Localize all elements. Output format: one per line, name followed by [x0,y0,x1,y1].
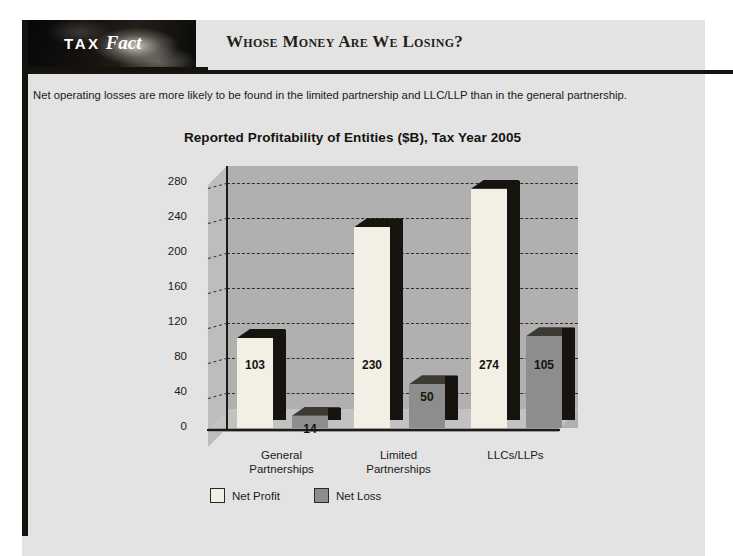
legend-swatch-net-loss [314,488,329,503]
y-axis-tick-label: 120 [147,315,187,327]
y-axis-tick-label: 240 [147,210,187,222]
gridline [227,183,578,184]
tax-fact-logo-text: TAXFact [64,33,142,54]
x-axis-tick-label: LimitedPartnerships [339,448,459,476]
plot-side-wall [208,166,227,447]
bar-value-label: 230 [354,358,390,372]
y-axis-tick-label: 280 [147,175,187,187]
bar-side-face [273,330,286,420]
x-axis-line [207,429,560,431]
x-axis-tick-label-line: Partnerships [339,462,459,476]
x-axis-tick-label-line: Limited [339,448,459,462]
plot-area: 1031423050274105 [185,166,585,451]
logo-underbar [28,67,208,74]
bar-front-face [237,338,273,428]
left-border-rule [22,20,28,536]
chart-legend: Net Profit Net Loss [210,488,381,503]
y-axis-tick-label: 40 [147,385,187,397]
x-axis-tick-label: GeneralPartnerships [222,448,342,476]
y-axis-line [226,166,228,430]
chart-title: Reported Profitability of Entities ($B),… [0,130,705,145]
x-axis-tick-label-line: Partnerships [222,462,342,476]
bar-value-label: 50 [409,390,445,404]
legend-label-net-profit: Net Profit [232,490,280,502]
bar-side-face [507,181,520,420]
intro-paragraph: Net operating losses are more likely to … [33,88,673,103]
bar-chart: 1031423050274105 04080120160200240280 Ge… [150,158,590,518]
bar-value-label: 274 [471,358,507,372]
bar-side-face [390,219,403,420]
bar-front-face [471,189,507,428]
bar-net-profit [471,189,507,428]
bar-side-face [445,376,458,420]
page-header: TAXFact Whose Money Are We Losing? [28,20,705,72]
legend-swatch-net-profit [210,488,225,503]
header-divider [208,70,733,74]
bar-net-loss [526,336,562,428]
logo-word-fact: Fact [106,32,142,53]
page-title: Whose Money Are We Losing? [226,32,463,52]
bar-value-label: 105 [526,358,562,372]
x-axis-tick-label: LLCs/LLPs [456,448,576,462]
bar-front-face [526,336,562,428]
y-axis-tick-label: 160 [147,280,187,292]
x-axis-tick-label-line: LLCs/LLPs [456,448,576,462]
logo-word-tax: TAX [64,35,101,52]
x-axis-tick-label-line: General [222,448,342,462]
y-axis-tick-label: 0 [147,420,187,432]
bar-value-label: 14 [292,422,328,436]
bar-front-face [354,227,390,428]
legend-item-net-loss: Net Loss [314,488,381,503]
legend-label-net-loss: Net Loss [336,490,381,502]
bar-side-face [328,408,341,420]
bar-value-label: 103 [237,358,273,372]
y-axis-tick-label: 80 [147,350,187,362]
bar-side-face [562,328,575,420]
bar-net-profit [354,227,390,428]
y-axis-tick-label: 200 [147,245,187,257]
bar-net-profit [237,338,273,428]
legend-item-net-profit: Net Profit [210,488,280,503]
tax-fact-logo: TAXFact [28,20,196,67]
